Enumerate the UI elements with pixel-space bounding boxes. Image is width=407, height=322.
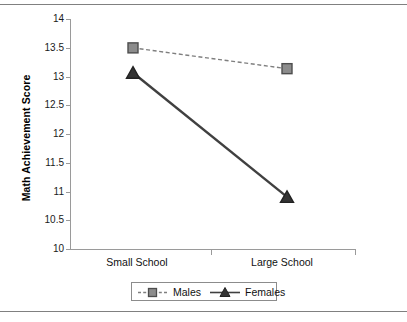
x-tick-mark-right <box>355 250 356 255</box>
y-tick-label-11-5: 11.5 <box>20 158 64 168</box>
y-tick-mark-12 <box>66 134 70 135</box>
plot-area <box>70 19 355 249</box>
legend-triangle-marker-icon <box>210 286 240 299</box>
chart-legend: Males Females <box>131 282 277 301</box>
y-tick-mark-13 <box>66 77 70 78</box>
y-tick-mark-12-5 <box>66 105 70 106</box>
y-tick-mark-13-5 <box>66 48 70 49</box>
y-tick-label-10: 10 <box>20 244 64 254</box>
y-tick-label-13: 13 <box>20 72 64 82</box>
y-axis-tick-labels: 14 13.5 13 12.5 12 11.5 11 10.5 10 <box>20 0 64 322</box>
legend-entry-males[interactable]: Males <box>138 285 201 299</box>
y-tick-label-14: 14 <box>20 14 64 24</box>
y-tick-mark-10 <box>66 249 70 250</box>
y-axis-line <box>70 19 71 250</box>
chart-figure: Math Achievement Score 14 13.5 13 12.5 1… <box>0 0 407 322</box>
y-tick-label-13-5: 13.5 <box>20 43 64 53</box>
data-point-males-large-school <box>282 64 292 74</box>
series-males <box>128 43 292 74</box>
legend-label-females: Females <box>245 286 285 298</box>
data-point-males-small-school <box>128 43 138 53</box>
y-tick-mark-14 <box>66 19 70 20</box>
y-tick-mark-11 <box>66 192 70 193</box>
x-category-label-small-school: Small School <box>77 256 197 268</box>
series-line-females <box>133 73 287 197</box>
y-tick-label-10-5: 10.5 <box>20 215 64 225</box>
legend-square-marker-icon <box>138 286 168 299</box>
x-tick-mark-center <box>211 250 212 255</box>
y-tick-mark-10-5 <box>66 220 70 221</box>
y-tick-label-12-5: 12.5 <box>20 100 64 110</box>
y-tick-label-12: 12 <box>20 129 64 139</box>
y-tick-mark-11-5 <box>66 163 70 164</box>
x-axis-line <box>70 249 356 250</box>
data-point-females-small-school <box>127 67 140 79</box>
data-series-layer <box>70 19 355 250</box>
series-females <box>127 67 294 203</box>
y-tick-label-11: 11 <box>20 187 64 197</box>
series-line-males <box>133 48 287 69</box>
x-category-label-large-school: Large School <box>222 256 342 268</box>
legend-entry-females[interactable]: Females <box>210 285 285 299</box>
legend-label-males: Males <box>173 286 201 298</box>
